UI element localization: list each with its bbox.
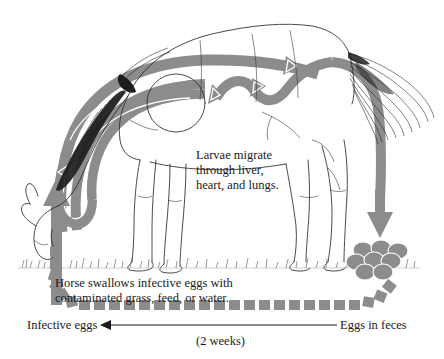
caption-horse-swallows: Horse swallows infective eggs with conta… bbox=[55, 276, 233, 306]
caption-larvae-line-2: through liver, bbox=[196, 163, 279, 178]
diagram-canvas: .gry{fill:#8c8c8c;} .gryS{stroke:#8c8c8c… bbox=[0, 0, 444, 359]
caption-swallow-line-1: Horse swallows infective eggs with bbox=[55, 276, 233, 291]
caption-larvae-migrate: Larvae migrate through liver, heart, and… bbox=[196, 148, 279, 192]
label-duration-two-weeks: (2 weeks) bbox=[196, 334, 245, 349]
label-eggs-in-feces: Eggs in feces bbox=[340, 318, 407, 333]
caption-larvae-line-3: heart, and lungs. bbox=[196, 178, 279, 193]
feces-pile bbox=[346, 240, 408, 280]
caption-swallow-line-2: contaminated grass, feed, or water. bbox=[55, 291, 233, 306]
caption-larvae-line-1: Larvae migrate bbox=[196, 148, 279, 163]
label-infective-eggs: Infective eggs bbox=[27, 318, 97, 333]
timeline-arrow bbox=[100, 320, 337, 330]
